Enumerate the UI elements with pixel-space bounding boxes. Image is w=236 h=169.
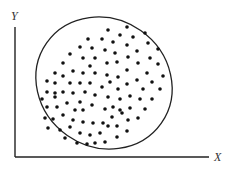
scatter-point [83, 90, 87, 94]
scatter-point [81, 120, 85, 124]
scatter-point [125, 25, 129, 29]
axes: Y X [11, 9, 222, 164]
scatter-point [101, 121, 105, 125]
scatter-point [61, 74, 65, 78]
scatter-point [58, 128, 62, 132]
scatter-point [148, 56, 152, 60]
scatter-point [93, 141, 97, 145]
scatter-point [68, 125, 72, 129]
scatter-point [103, 140, 107, 144]
scatter-point [61, 113, 65, 117]
scatter-point [146, 41, 150, 45]
scatter-point [46, 126, 50, 130]
scatter-point [125, 129, 129, 133]
scatter-point [51, 117, 55, 121]
scatter-point [141, 87, 145, 91]
scatter-point [111, 40, 115, 44]
scatter-point [55, 105, 59, 109]
scatter-point [125, 68, 129, 72]
scatter-points [40, 25, 165, 146]
scatter-point [115, 60, 119, 64]
scatter-point [45, 105, 49, 109]
scatter-point [131, 35, 135, 39]
x-axis-label: X [213, 150, 222, 164]
scatter-point [125, 43, 129, 47]
scatter-point [81, 71, 85, 75]
scatter-point [103, 48, 107, 52]
scatter-point [145, 71, 149, 75]
scatter-point [40, 97, 44, 101]
scatter-point [71, 91, 75, 95]
scatter-point [93, 56, 97, 60]
scatter-point [88, 64, 92, 68]
scatter-point [81, 56, 85, 60]
scatter-point [88, 81, 92, 85]
scatter-point [143, 31, 147, 35]
scatter-point [106, 95, 110, 99]
scatter-point [126, 55, 130, 59]
scatter-point [81, 108, 85, 112]
scatter-point [116, 75, 120, 79]
scatter-point [113, 51, 117, 55]
scatter-point [78, 45, 82, 49]
scatter-point [78, 131, 82, 135]
scatter-point [68, 52, 72, 56]
scatter-point [158, 87, 162, 91]
scatter-point [65, 101, 69, 105]
scatter-point [115, 135, 119, 139]
scatter-point [135, 78, 139, 82]
scatter-point [118, 33, 122, 37]
scatter-point [78, 100, 82, 104]
scatter-point [138, 97, 142, 101]
scatter-point [98, 131, 102, 135]
scatter-point [128, 106, 132, 110]
scatter-point [53, 95, 57, 99]
scatter-point [88, 133, 92, 137]
scatter-point [100, 85, 104, 89]
scatter-point [86, 37, 90, 41]
scatter-point [156, 47, 160, 51]
scatter-point [106, 124, 110, 128]
scatter-point [143, 107, 147, 111]
scatter-point [61, 90, 65, 94]
scatter-point [161, 74, 165, 78]
scatter-point [120, 111, 124, 115]
scatter-point [100, 37, 104, 41]
scatter-point [125, 82, 129, 86]
scatter-point [71, 118, 75, 122]
scatter-point [105, 61, 109, 65]
scatter-point [73, 108, 77, 112]
scatter-point [53, 91, 57, 95]
y-axis-label: Y [11, 9, 19, 23]
scatter-ellipse-diagram: Y X [0, 0, 236, 169]
scatter-point [150, 80, 154, 84]
scatter-point [105, 73, 109, 77]
scatter-point [126, 118, 130, 122]
scatter-point [63, 136, 67, 140]
scatter-point [45, 90, 49, 94]
scatter-point [103, 107, 107, 111]
scatter-point [93, 71, 97, 75]
scatter-point [115, 124, 119, 128]
scatter-point [43, 116, 47, 120]
scatter-point [108, 80, 112, 84]
scatter-point [61, 61, 65, 65]
scatter-point [110, 115, 114, 119]
scatter-point [53, 71, 57, 75]
scatter-point [136, 116, 140, 120]
scatter-point [53, 81, 57, 85]
scatter-point [106, 28, 110, 32]
scatter-point [150, 97, 154, 101]
scatter-point [128, 94, 132, 98]
enclosing-ellipse [10, 0, 198, 169]
scatter-point [90, 46, 94, 50]
scatter-point [85, 142, 89, 146]
scatter-point [111, 105, 115, 109]
scatter-point [78, 81, 82, 85]
scatter-point [118, 97, 122, 101]
scatter-point [90, 103, 94, 107]
scatter-point [156, 62, 160, 66]
scatter-point [45, 79, 49, 83]
scatter-point [91, 121, 95, 125]
scatter-point [93, 93, 97, 97]
